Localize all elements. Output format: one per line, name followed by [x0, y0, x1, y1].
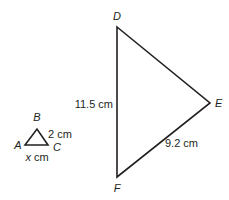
- side-label-ef: 9.2 cm: [165, 137, 198, 149]
- vertex-label-b: B: [33, 111, 40, 123]
- triangle-def: D E F 11.5 cm 9.2 cm: [75, 10, 223, 194]
- triangle-abc: B A C 2 cm x cm: [13, 111, 72, 163]
- triangle-def-shape: [117, 27, 210, 177]
- side-label-ac: x cm: [24, 151, 48, 163]
- side-label-df: 11.5 cm: [75, 98, 113, 110]
- similar-triangles-diagram: B A C 2 cm x cm D E F 11.5 cm 9.2 cm: [0, 0, 229, 200]
- side-label-bc: 2 cm: [48, 128, 72, 140]
- vertex-label-a: A: [13, 139, 21, 151]
- vertex-label-c: C: [53, 141, 61, 153]
- triangle-abc-shape: [25, 129, 48, 145]
- vertex-label-e: E: [215, 97, 223, 109]
- vertex-label-f: F: [114, 182, 122, 194]
- side-label-ac-unit: cm: [31, 151, 49, 163]
- vertex-label-d: D: [113, 10, 121, 22]
